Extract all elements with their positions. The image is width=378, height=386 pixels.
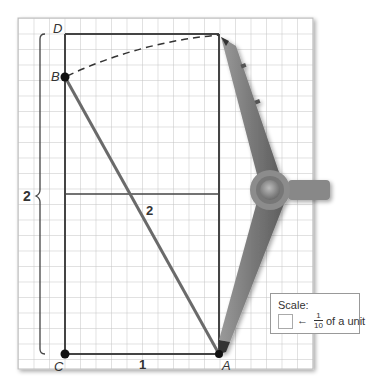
point-c [61, 350, 70, 359]
scale-square [278, 314, 293, 329]
arrow-left-icon: ← [297, 314, 308, 326]
scale-unit-text: of a unit [326, 315, 365, 327]
label-c: C [54, 359, 64, 374]
fraction-denominator: 10 [314, 320, 323, 330]
label-height: 2 [23, 188, 31, 204]
label-d: D [53, 21, 62, 36]
scale-title: Scale: [278, 299, 309, 311]
label-base: 1 [139, 357, 146, 372]
point-b [61, 73, 70, 82]
fraction-numerator: 1 [314, 311, 323, 320]
scale-fraction: 1 10 [314, 311, 323, 330]
label-hypotenuse: 2 [146, 203, 153, 218]
label-b: B [51, 69, 60, 84]
scale-legend: Scale: ← 1 10 of a unit [270, 293, 360, 334]
label-a: A [221, 358, 231, 373]
point-a [215, 350, 223, 358]
